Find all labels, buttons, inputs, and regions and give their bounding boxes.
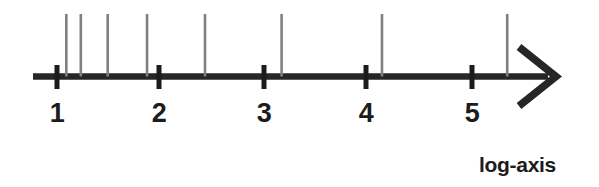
axis-tick-label-4: 4 [346, 100, 386, 127]
axis-tick-label-5: 5 [452, 100, 492, 127]
rug-line-group [66, 14, 507, 77]
axis-tick-label-3: 3 [244, 100, 284, 127]
axis-tick-label-1: 1 [37, 100, 77, 127]
axis-tick-label-2: 2 [139, 100, 179, 127]
axis-caption-label: log-axis [479, 154, 556, 175]
log-axis-figure: 1 2 3 4 5 log-axis [0, 0, 599, 187]
